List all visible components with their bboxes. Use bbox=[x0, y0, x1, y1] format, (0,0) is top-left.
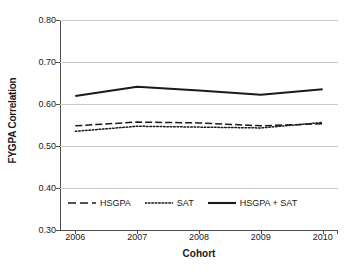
legend-swatch-solid bbox=[208, 199, 236, 207]
legend-item-hsgpa-sat: HSGPA + SAT bbox=[208, 198, 297, 208]
y-tick-label: 0.80 bbox=[22, 15, 56, 25]
x-axis-tick-labels: 20062007200820092010 bbox=[60, 232, 338, 248]
legend-label: HSGPA + SAT bbox=[240, 198, 297, 208]
legend-item-sat: SAT bbox=[145, 198, 194, 208]
chart-legend: HSGPASATHSGPA + SAT bbox=[68, 198, 297, 208]
y-tick-label: 0.50 bbox=[22, 141, 56, 151]
chart-figure: FYGPA Correlation 0.300.400.500.600.700.… bbox=[0, 0, 349, 277]
y-tick-label: 0.40 bbox=[22, 183, 56, 193]
legend-label: HSGPA bbox=[100, 198, 131, 208]
y-tick-label: 0.60 bbox=[22, 99, 56, 109]
x-tick-label-2010: 2010 bbox=[313, 232, 333, 242]
x-tick-label-2008: 2008 bbox=[189, 232, 209, 242]
y-axis-title: FYGPA Correlation bbox=[2, 0, 22, 240]
series-line-hsgpa-sat bbox=[75, 87, 322, 96]
legend-label: SAT bbox=[177, 198, 194, 208]
y-tick-label: 0.70 bbox=[22, 57, 56, 67]
series-line-sat bbox=[75, 122, 322, 131]
y-tick-label: 0.30 bbox=[22, 225, 56, 235]
y-axis-title-label: FYGPA Correlation bbox=[7, 77, 18, 163]
y-tick-mark bbox=[56, 230, 60, 231]
x-axis-title: Cohort bbox=[60, 248, 338, 259]
legend-swatch-dotted bbox=[145, 199, 173, 207]
x-tick-label-2007: 2007 bbox=[127, 232, 147, 242]
x-tick-label-2009: 2009 bbox=[251, 232, 271, 242]
legend-item-hsgpa: HSGPA bbox=[68, 198, 131, 208]
x-tick-label-2006: 2006 bbox=[65, 232, 85, 242]
y-axis-tick-labels: 0.300.400.500.600.700.80 bbox=[22, 0, 56, 240]
legend-swatch-dashed bbox=[68, 199, 96, 207]
